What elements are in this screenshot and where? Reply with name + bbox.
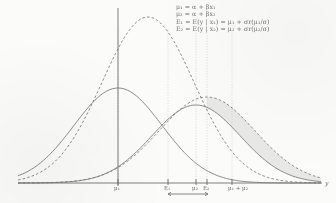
- measure-arrow: [168, 192, 208, 195]
- tick-label-1: E₁: [164, 185, 170, 191]
- x-axis-label: y: [325, 179, 328, 186]
- chart-canvas: [0, 0, 336, 203]
- curve-dashed-density-2: [18, 97, 321, 183]
- tick-label-4: μ₁ + μ₂: [228, 185, 248, 191]
- equation-annotations: μ₁ = α + βx₁ μ₂ = α + βx₂ E₁ = E(y | x₁)…: [176, 3, 270, 33]
- tick-label-3: E₂: [203, 185, 209, 191]
- curve-solid-density-2: [18, 105, 321, 183]
- equation-line-3: E₁ = E(y | x₁) = μ₁ + σr(μ₁/σ): [176, 18, 270, 25]
- equation-line-2: μ₂ = α + βx₂: [176, 10, 270, 17]
- tick-label-2: μ₂: [192, 185, 198, 191]
- equation-line-4: E₂ = E(y | x₂) = μ₂ + σr(μ₂/σ): [176, 25, 270, 32]
- tick-label-0: μ₁: [114, 185, 120, 191]
- curve-solid-density-1: [18, 88, 321, 183]
- equation-line-1: μ₁ = α + βx₁: [176, 3, 270, 10]
- axis-tick-marks: [118, 179, 232, 185]
- tail-difference-shading: [207, 97, 321, 182]
- statistical-density-figure: μ₁ = α + βx₁ μ₂ = α + βx₂ E₁ = E(y | x₁)…: [0, 0, 336, 203]
